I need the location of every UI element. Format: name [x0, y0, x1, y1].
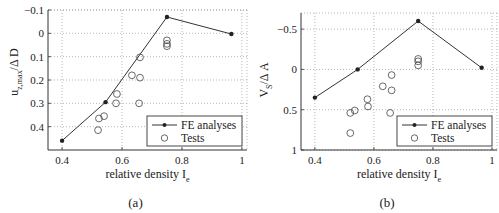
y-tick-label: 0.2 [30, 74, 44, 86]
y-tick-label: 0.4 [30, 121, 44, 133]
star-marker [416, 19, 420, 23]
x-tick-label: 0.6 [115, 154, 129, 166]
circle-marker [379, 83, 386, 90]
circle-marker [365, 103, 372, 110]
x-tick-label: 0.8 [175, 154, 189, 166]
y-tick-label: 0.3 [30, 97, 44, 109]
y-tick-label: −0.1 [24, 4, 44, 16]
x-axis-label: relative density Ie [105, 167, 190, 184]
y-tick-label: 0.1 [30, 51, 44, 63]
star-marker [103, 100, 107, 104]
circle-marker [347, 130, 354, 137]
legend: FE analysesTests [397, 116, 492, 146]
star-marker [479, 66, 483, 70]
legend-tests-label: Tests [181, 132, 205, 144]
star-marker [313, 95, 317, 99]
y-axis-label: uz,max/Δ D [7, 48, 24, 96]
y-tick-label: 1 [292, 144, 298, 156]
y-tick-label: 0 [292, 63, 298, 75]
legend-star-icon [163, 123, 167, 127]
circle-marker [364, 96, 371, 103]
x-tick-label: 0.8 [426, 154, 440, 166]
legend-tests-label: Tests [431, 132, 455, 144]
chart-panel-a: 0.40.60.81−0.100.10.20.30.4relative dens… [0, 0, 250, 213]
x-tick-label: 0.4 [55, 154, 69, 166]
star-marker [165, 15, 169, 19]
legend-fe-label: FE analyses [181, 119, 237, 132]
y-tick-label: 0 [39, 27, 45, 39]
circle-marker [388, 72, 395, 79]
figure-caption: (a) [128, 195, 142, 210]
y-tick-label: 0.5 [283, 104, 297, 116]
circle-marker [114, 91, 121, 98]
circle-marker [387, 110, 394, 117]
x-tick-label: 0.6 [367, 154, 381, 166]
chart-a-svg: 0.40.60.81−0.100.10.20.30.4relative dens… [0, 0, 250, 213]
y-axis-label: VS/Δ A [257, 62, 274, 98]
chart-b-svg: 0.40.60.81−0.500.51relative density IeVS… [250, 0, 499, 213]
x-tick-label: 1 [239, 154, 245, 166]
circle-marker [95, 127, 102, 134]
star-marker [60, 138, 64, 142]
legend-star-icon [413, 123, 417, 127]
x-axis-label: relative density Ie [357, 167, 442, 184]
legend: FE analysesTests [147, 116, 242, 146]
star-marker [355, 67, 359, 71]
circle-marker [415, 62, 422, 69]
circle-marker [129, 72, 136, 79]
circle-marker [113, 100, 120, 107]
y-tick-label: −0.5 [277, 23, 297, 35]
circle-marker [388, 87, 395, 94]
circle-marker [137, 74, 144, 81]
fe-analyses-series [313, 19, 484, 100]
chart-panel-b: 0.40.60.81−0.500.51relative density IeVS… [250, 0, 499, 213]
figure-caption: (b) [379, 195, 394, 210]
legend-fe-label: FE analyses [431, 119, 487, 132]
x-tick-label: 1 [489, 154, 495, 166]
star-marker [229, 32, 233, 36]
x-tick-label: 0.4 [308, 154, 322, 166]
